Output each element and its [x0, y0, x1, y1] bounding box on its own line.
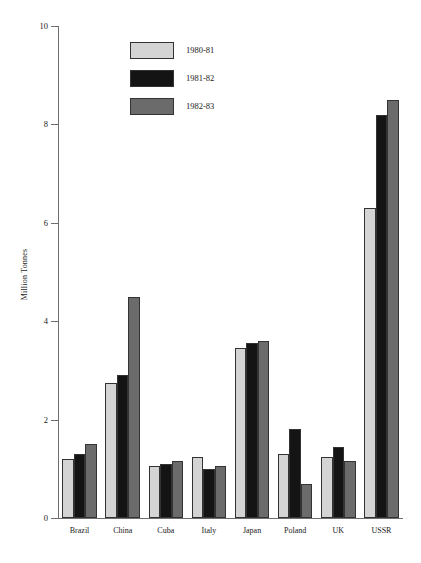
bar-chart-figure: 0246810 Million Tonnes BrazilChinaCubaIt… — [0, 0, 421, 563]
x-axis-category-label: Japan — [231, 526, 274, 535]
x-axis-category-label: Italy — [187, 526, 230, 535]
y-tick-mark — [51, 518, 59, 519]
bar — [301, 484, 313, 518]
bar — [192, 457, 204, 519]
bar — [321, 457, 333, 519]
x-axis-category-label: UK — [317, 526, 360, 535]
bar — [149, 466, 161, 518]
bar — [376, 115, 388, 518]
bar — [85, 444, 97, 518]
legend-label: 1981-82 — [186, 72, 214, 84]
x-axis-category-label: Cuba — [144, 526, 187, 535]
bar — [160, 464, 172, 518]
x-axis-category-label: China — [101, 526, 144, 535]
legend-label: 1982-83 — [186, 100, 214, 112]
legend-color-swatch — [130, 98, 174, 115]
legend-color-swatch — [130, 42, 174, 59]
x-axis-category-label: Brazil — [58, 526, 101, 535]
y-tick-label-wrap: 2 — [0, 416, 48, 425]
bar — [215, 466, 227, 518]
bar — [62, 459, 74, 518]
legend-color-swatch — [130, 70, 174, 87]
y-tick-label: 10 — [8, 22, 48, 31]
bar — [235, 348, 247, 518]
bar — [333, 447, 345, 518]
bar — [203, 469, 215, 518]
y-tick-label: 0 — [8, 514, 48, 523]
bar — [387, 100, 399, 518]
bar — [278, 454, 290, 518]
plot-area — [58, 26, 403, 518]
bar — [117, 375, 129, 518]
bar — [128, 297, 140, 518]
x-axis-category-label: Poland — [274, 526, 317, 535]
bar — [172, 461, 184, 518]
y-tick-label-wrap: 0 — [0, 514, 48, 523]
x-axis-line — [58, 518, 403, 519]
x-axis-category-label: USSR — [360, 526, 403, 535]
bar — [74, 454, 86, 518]
legend-label: 1980-81 — [186, 44, 214, 56]
bar — [364, 208, 376, 518]
bar — [289, 429, 301, 518]
y-tick-label: 8 — [8, 120, 48, 129]
y-axis-label: Million Tonnes — [20, 215, 29, 335]
y-tick-label: 2 — [8, 416, 48, 425]
bar — [344, 461, 356, 518]
y-tick-label-wrap: 8 — [0, 120, 48, 129]
bar — [105, 383, 117, 518]
bar — [258, 341, 270, 518]
bar — [246, 343, 258, 518]
y-tick-label-wrap: 10 — [0, 22, 48, 31]
